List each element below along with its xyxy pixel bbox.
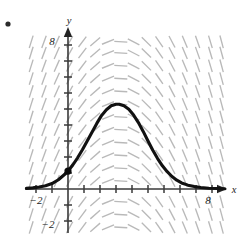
slope-field-segment [156,176,163,187]
slope-field-segment [169,137,175,149]
slope-field-segment [79,112,87,122]
slope-field-segment [142,37,151,46]
slope-field-segment [102,39,114,44]
slope-field-segment [128,152,140,158]
slope-field-segment [195,221,199,233]
slope-field-segment [79,209,87,219]
slope-field-segment [195,111,199,123]
slope-field-segment [79,163,87,173]
slope-field-segment [90,100,100,109]
slope-field-segment [142,210,151,219]
slope-field-segment [102,212,114,217]
slope-field-segment [114,181,127,182]
slope-field-segment [169,222,175,234]
slope-field-segment [54,73,59,85]
slope-field-segment [54,111,59,123]
slope-field-segment [128,50,140,56]
slope-field-segment [220,111,223,124]
slope-field-segment [79,73,87,83]
slope-field-segment [182,162,187,174]
slope-field-segment [128,101,140,107]
slope-field-segment [29,72,33,84]
slope-field-segment [128,63,140,69]
slope-field-segment [209,98,213,110]
slope-field-segment [102,179,114,184]
slope-field-segment [156,209,163,220]
slope-field-segment [102,153,114,158]
slope-field-segment [102,199,114,204]
slope-field-segment [90,138,100,147]
slope-field-segment [209,85,213,97]
slope-field-segment [29,85,33,97]
slope-field-segment [54,124,59,136]
slope-field-segment [102,115,114,120]
y-axis-arrowhead [64,27,72,37]
slope-field-segment [90,198,100,207]
slope-field-segment [90,164,100,173]
slope-field-segment [90,38,100,47]
slope-field-segment [114,65,127,66]
slope-field-segment [29,175,33,187]
slope-field-segment [195,149,199,161]
slope-field-segment [114,129,127,130]
slope-field-segment [54,137,59,149]
slope-field-segment [169,196,175,208]
slope-field-segment [195,85,199,97]
slope-field-segment [29,208,33,220]
slope-field-segment [79,125,87,135]
slope-field-segment [114,168,127,169]
slope-field-segment [79,37,87,47]
slope-field-segment [90,151,100,160]
slope-field-segment [156,112,163,123]
slope-field-segment [156,222,163,233]
slope-field-segment [220,47,223,60]
slope-field-segment [182,47,187,59]
slope-field-segment [102,76,114,81]
slope-field-segment [114,91,127,92]
slope-field-figure: −288−2xy [0,0,247,246]
slope-field-segment [90,74,100,83]
slope-field-segment [54,98,59,110]
slope-field-layer [29,36,223,234]
slope-field-segment [169,47,175,59]
slope-field-segment [29,149,33,161]
slope-field-segment [182,73,187,85]
slope-field-segment [142,223,151,232]
slope-field-segment [220,221,223,234]
y-axis-label: y [66,15,72,26]
slope-field-segment [29,221,33,233]
slope-field-segment [169,111,175,123]
slope-field-segment [79,197,87,207]
slope-field-segment [182,60,187,72]
slope-field-segment [114,41,127,42]
slope-field-segment [156,99,163,110]
slope-field-segment [54,221,59,233]
slope-field-segment [42,137,46,149]
slope-field-segment [220,60,223,73]
tick-label-y-8: 8 [49,35,55,47]
slope-field-segment [156,73,163,84]
slope-field-segment [169,60,175,72]
slope-field-segment [102,166,114,171]
slope-field-segment [142,164,151,173]
slope-field-segment [79,61,87,71]
slope-field-segment [102,127,114,132]
slope-field-segment [169,36,175,48]
slope-field-segment [29,111,33,123]
slope-field-segment [209,111,213,123]
slope-field-segment [169,73,175,85]
slope-field-segment [114,214,127,215]
slope-field-segment [42,124,46,136]
slope-field-segment [156,86,163,97]
slope-field-segment [114,227,127,228]
slope-field-segment [209,221,213,233]
slope-field-segment [142,112,151,121]
slope-field-segment [42,111,46,123]
slope-field-segment [209,47,213,59]
slope-field-segment [90,210,100,219]
slope-field-segment [156,196,163,207]
slope-field-segment [169,124,175,136]
plot-canvas: −288−2xy [0,0,247,246]
slope-field-segment [156,36,163,47]
slope-field-segment [195,60,199,72]
